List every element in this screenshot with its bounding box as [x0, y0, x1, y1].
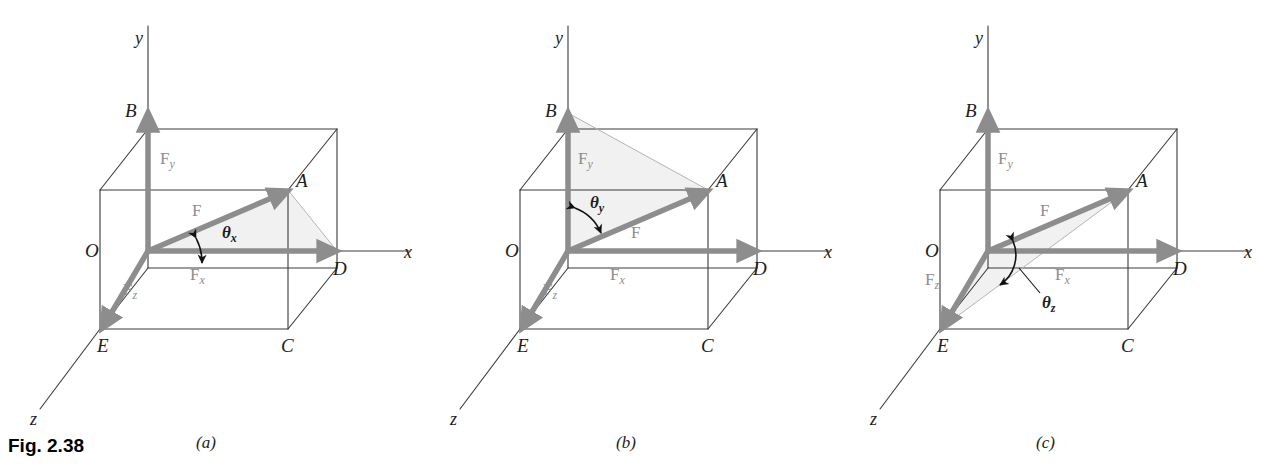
axis-label-z-b: z: [449, 409, 457, 429]
vertex-label-C-c: C: [1121, 335, 1134, 356]
axis-label-y-b: y: [553, 28, 563, 48]
vertex-label-A-c: A: [1134, 170, 1148, 191]
axis-label-x-b: x: [823, 242, 832, 262]
figure-canvas: O A B C D E x y z F Fx Fy Fz θx (a): [0, 0, 1269, 474]
vertex-label-D-b: D: [752, 258, 767, 279]
force-vectors-b: [526, 120, 749, 322]
axis-label-x-c: x: [1243, 242, 1252, 262]
z-axis-line-c: [880, 329, 940, 409]
vertex-label-E-b: E: [516, 335, 529, 356]
vertex-label-O-a: O: [85, 240, 99, 261]
axis-label-z-a: z: [29, 409, 37, 429]
vertex-label-C-b: C: [701, 335, 714, 356]
vertex-label-D-c: D: [1172, 258, 1187, 279]
panel-c: O A B C D E x y z F Fx Fy Fz θz (c): [869, 26, 1252, 452]
figure-number-label: Fig. 2.38: [8, 435, 84, 456]
axis-label-y-c: y: [973, 28, 983, 48]
z-axis-line-a: [40, 329, 100, 409]
axis-label-y-a: y: [133, 28, 143, 48]
vertex-label-D-a: D: [332, 258, 347, 279]
panel-caption-b: (b): [616, 433, 636, 452]
force-label-Fz-c: Fz: [925, 270, 939, 292]
force-label-Fy-c: Fy: [998, 149, 1013, 171]
axis-label-x-a: x: [403, 242, 412, 262]
force-label-F-c: F: [1040, 201, 1049, 220]
panel-caption-c: (c): [1036, 433, 1055, 452]
panel-b: O A B C D E x y z F Fx Fy Fz θy (b): [449, 26, 832, 452]
force-label-F-a: F: [192, 201, 201, 220]
z-axis-line-b: [460, 329, 520, 409]
axis-label-z-c: z: [869, 409, 877, 429]
vertex-label-O-c: O: [925, 240, 939, 261]
panel-caption-a: (a): [196, 433, 216, 452]
vertex-label-B-a: B: [125, 100, 137, 121]
force-label-Fy-a: Fy: [160, 149, 175, 171]
angle-label-thetaz-c: θz: [1042, 293, 1056, 315]
vertex-label-A-b: A: [714, 170, 728, 191]
shaded-face-a: [148, 190, 337, 251]
vertex-label-B-b: B: [545, 100, 557, 121]
vertex-label-E-a: E: [96, 335, 109, 356]
force-label-F-b: F: [631, 223, 640, 242]
vertex-label-A-a: A: [294, 170, 308, 191]
faint-diagonal-c: [940, 190, 1128, 329]
panel-a: O A B C D E x y z F Fx Fy Fz θx (a): [29, 26, 412, 452]
vertex-label-C-a: C: [281, 335, 294, 356]
vertex-label-E-c: E: [936, 335, 949, 356]
vertex-label-B-c: B: [965, 100, 977, 121]
figure-container: O A B C D E x y z F Fx Fy Fz θx (a): [0, 0, 1269, 474]
vertex-label-O-b: O: [505, 240, 519, 261]
